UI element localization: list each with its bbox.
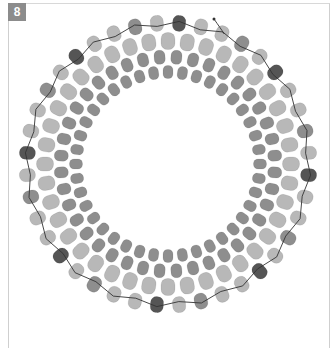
bead xyxy=(202,74,217,90)
bead xyxy=(38,81,58,100)
bead xyxy=(85,274,104,294)
bead xyxy=(85,253,106,275)
bead xyxy=(133,244,147,259)
bead xyxy=(230,253,251,275)
bead xyxy=(90,74,107,92)
bead xyxy=(193,292,209,311)
bead xyxy=(38,228,58,247)
bead xyxy=(278,81,298,100)
bead xyxy=(275,193,295,212)
bead xyxy=(106,230,122,246)
bead xyxy=(28,101,48,119)
bead xyxy=(19,168,36,182)
bead xyxy=(119,238,134,254)
bead xyxy=(127,292,143,311)
bead xyxy=(73,129,88,143)
bead xyxy=(202,238,217,254)
bead xyxy=(163,66,173,79)
bead xyxy=(244,240,266,262)
bead xyxy=(141,276,157,295)
bead xyxy=(249,261,269,282)
bead xyxy=(230,54,251,76)
bead xyxy=(106,81,122,97)
bead xyxy=(70,66,92,88)
bead xyxy=(22,123,41,139)
bead xyxy=(214,81,230,97)
bead xyxy=(133,69,147,84)
bead xyxy=(37,157,54,171)
bead xyxy=(78,225,96,242)
bead xyxy=(275,117,295,136)
bead xyxy=(68,100,86,117)
bead xyxy=(148,66,160,80)
bead xyxy=(127,18,143,37)
bead xyxy=(58,226,80,247)
bead xyxy=(234,210,250,226)
bead xyxy=(78,86,96,103)
outer-row xyxy=(19,15,317,313)
bead xyxy=(225,91,241,107)
bead xyxy=(265,62,286,82)
bead xyxy=(288,209,308,227)
bead xyxy=(250,100,268,117)
bead xyxy=(244,66,266,88)
bead xyxy=(119,254,135,271)
bead xyxy=(85,102,101,118)
bead xyxy=(179,33,195,52)
bead xyxy=(22,189,41,205)
bead xyxy=(163,250,173,263)
bead xyxy=(161,33,175,50)
bead xyxy=(250,212,268,229)
bead xyxy=(61,115,78,131)
bead xyxy=(264,132,280,146)
bead xyxy=(264,182,280,196)
bead xyxy=(267,150,282,162)
bead xyxy=(161,279,175,296)
bead xyxy=(190,244,204,259)
bead xyxy=(154,263,166,278)
bead xyxy=(37,175,56,191)
bead xyxy=(41,117,61,136)
bead xyxy=(48,98,70,118)
bead xyxy=(141,33,157,52)
bead xyxy=(201,254,217,271)
bead xyxy=(214,44,234,66)
bead xyxy=(197,271,216,291)
bead xyxy=(258,197,275,213)
thread-line xyxy=(25,21,310,306)
bead xyxy=(197,37,216,57)
bead xyxy=(176,248,188,262)
bead xyxy=(267,210,289,230)
bead xyxy=(201,57,217,74)
bead xyxy=(241,225,259,242)
bead xyxy=(280,175,299,191)
bead xyxy=(267,166,282,178)
bead xyxy=(150,15,164,32)
bead xyxy=(252,172,266,184)
bead xyxy=(234,102,250,118)
bead xyxy=(216,64,233,82)
bead xyxy=(296,189,315,205)
bead xyxy=(121,37,140,57)
bead xyxy=(242,115,258,130)
bead xyxy=(121,271,140,291)
bead xyxy=(56,182,72,196)
bead xyxy=(186,52,200,68)
bead xyxy=(104,64,121,82)
bead xyxy=(242,198,258,213)
bead xyxy=(216,246,233,264)
bead xyxy=(225,221,241,237)
bead xyxy=(190,69,204,84)
bead xyxy=(85,54,106,76)
bead xyxy=(248,129,263,143)
bead xyxy=(232,34,251,54)
bead xyxy=(105,284,123,304)
bead xyxy=(66,46,86,67)
bead xyxy=(193,18,209,37)
bead xyxy=(48,210,70,230)
bead xyxy=(50,245,71,265)
bead xyxy=(102,44,122,66)
bead xyxy=(136,260,150,276)
bead xyxy=(54,150,69,162)
bead xyxy=(102,263,122,285)
